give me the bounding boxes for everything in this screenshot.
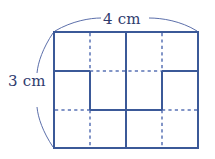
height-brace-bottom-arc — [37, 107, 53, 147]
solid-grid-lines — [54, 33, 198, 147]
measurement-braces — [37, 18, 197, 147]
height-brace-top-arc — [37, 33, 53, 73]
height-dimension-label: 3 cm — [8, 74, 46, 89]
width-dimension-label: 4 cm — [103, 12, 141, 27]
width-brace-left-arc — [55, 18, 101, 31]
width-brace-right-arc — [149, 18, 197, 31]
geometry-figure: 4 cm 3 cm — [0, 0, 215, 159]
